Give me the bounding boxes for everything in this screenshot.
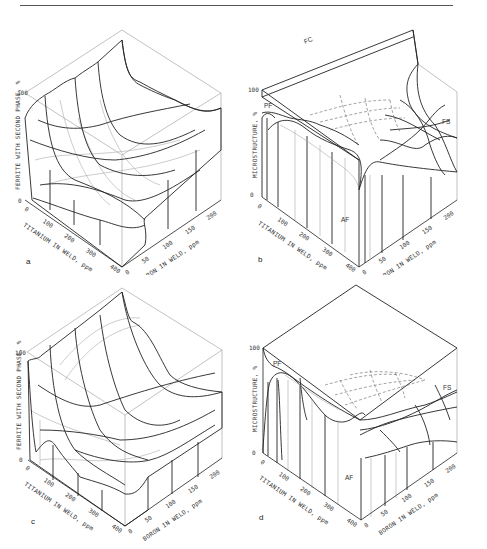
panel-d-region-fs: FS [443, 384, 452, 391]
panel-b-y-tick-100: 100 [398, 239, 411, 251]
panel-c-x-tick-0: 0 [24, 464, 31, 472]
panel-c-y-tick-200: 200 [208, 468, 221, 480]
panel-c-chart: 100 0 FERRITE WITH SECOND PHASE, % 0 100… [0, 270, 245, 549]
panel-a-x-tick-0: 0 [23, 205, 30, 213]
panel-d-y-tick-100: 100 [400, 492, 413, 504]
panel-d-x-axis-label: TITANIUM IN WELD, ppm [258, 474, 331, 527]
panel-c-grid-minor [30, 318, 160, 465]
panel-a-z-axis-label: FERRITE WITH SECOND PHASE, % [14, 80, 21, 190]
panel-a-y-tick-200: 200 [205, 209, 218, 221]
panel-a-z-tick-0: 0 [18, 197, 22, 204]
panel-d-z-tick-0: 0 [252, 449, 256, 456]
panel-a-chart: 100 0 FERRITE WITH SECOND PHASE, % 0 100… [0, 0, 245, 275]
panel-c-y-tick-0: 0 [127, 527, 134, 535]
panel-d-x-tick-100: 100 [278, 470, 291, 482]
panel-b-z-tick-100: 100 [248, 86, 259, 93]
panel-c-z-tick-0: 0 [19, 456, 23, 463]
panel-b-axes: 100 0 MICROSTRUCTURE, % FC PF FS AF 0 10… [248, 35, 463, 275]
panel-b-region-fs: FS [442, 118, 451, 125]
panel-b-box [418, 64, 457, 200]
panel-d-label: d [259, 513, 263, 522]
panel-d-z-tick-100: 100 [249, 344, 260, 351]
panel-d-x-tick-400: 400 [346, 516, 359, 528]
panel-d-y-tick-0: 0 [363, 521, 370, 529]
panel-d-y-tick-200: 200 [444, 462, 457, 474]
panel-d-region-af: AF [345, 474, 353, 481]
panel-c-y-tick-100: 100 [164, 498, 177, 510]
panel-b-chart: 100 0 MICROSTRUCTURE, % FC PF FS AF 0 10… [240, 0, 487, 275]
panel-c-z-axis-label: FERRITE WITH SECOND PHASE, % [15, 340, 22, 450]
panel-a-y-tick-100: 100 [161, 239, 174, 251]
panel-d-hidden-grid [325, 370, 425, 410]
panel-d-y-tick-150: 150 [422, 476, 435, 488]
panel-a-y-tick-50: 50 [140, 255, 150, 265]
panel-a-x-axis-label: TITANIUM IN WELD, ppm [22, 221, 95, 274]
panel-b-region-pf: PF [264, 102, 272, 109]
panel-d-x-tick-200: 200 [299, 485, 312, 497]
panel-b-x-tick-0: 0 [256, 202, 263, 210]
panel-b-grid-minor [280, 125, 370, 258]
panel-b-y-tick-50: 50 [377, 255, 387, 265]
panel-b-z-tick-0: 0 [250, 191, 254, 198]
panel-d-chart: 100 0 MICROSTRUCTURE, % PF FS AF 0 100 2… [240, 270, 487, 549]
panel-d-x-tick-0: 0 [259, 458, 266, 466]
panel-b-x-tick-200: 200 [298, 230, 311, 242]
panel-d-z-axis-label: MICROSTRUCTURE, % [251, 365, 258, 432]
panel-d-region-pf: PF [273, 360, 281, 367]
panel-c-y-tick-50: 50 [143, 514, 153, 524]
panel-b-region-af: AF [341, 216, 349, 223]
panel-d-y-tick-50: 50 [379, 508, 389, 518]
panel-b-z-axis-label: MICROSTRUCTURE, % [251, 111, 258, 178]
panel-b-y-tick-200: 200 [442, 209, 455, 221]
panel-b-region-fc: FC [303, 35, 314, 45]
panel-c-y-tick-150: 150 [186, 482, 199, 494]
panel-b-label: b [258, 255, 263, 264]
panel-b-y-tick-150: 150 [420, 223, 433, 235]
panel-a-grid-minor [35, 100, 200, 205]
panel-b-x-tick-100: 100 [276, 215, 289, 227]
panel-a-x-tick-200: 200 [63, 232, 76, 244]
panel-b-fc-layer [262, 30, 457, 167]
panel-d-x-tick-300: 300 [322, 501, 335, 513]
panel-a-label: a [26, 257, 31, 266]
panel-a-y-tick-150: 150 [183, 223, 196, 235]
panel-b-x-axis-label: TITANIUM IN WELD, ppm [256, 219, 329, 272]
panel-c-x-tick-100: 100 [43, 476, 56, 488]
panel-c-label: c [31, 517, 35, 526]
